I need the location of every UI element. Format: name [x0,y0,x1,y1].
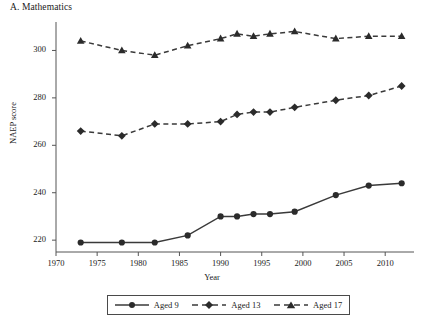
circle-marker [115,300,149,310]
data-point-triangle [118,46,126,53]
y-tick-label: 260 [12,139,46,149]
data-point-diamond [151,120,159,128]
data-point-circle [250,211,256,217]
series-line-aged-13 [81,86,402,136]
series-line-aged-17 [81,31,402,55]
legend-item-aged-17: Aged 17 [274,300,342,310]
x-tick-label: 1995 [242,258,282,268]
legend-label-aged-9: Aged 9 [154,300,179,310]
data-point-diamond [332,96,340,104]
x-tick-label: 1990 [201,258,241,268]
x-tick-label: 2010 [365,258,405,268]
x-tick-label: 2000 [283,258,323,268]
data-point-circle [333,192,339,198]
legend-label-aged-13: Aged 13 [231,300,260,310]
x-tick-label: 1975 [77,258,117,268]
data-point-circle [267,211,273,217]
series-line-aged-9 [81,183,402,242]
data-point-circle [78,239,84,245]
x-tick-label: 1985 [159,258,199,268]
data-point-diamond [233,111,241,119]
data-point-diamond [118,132,126,140]
data-point-triangle [365,32,373,39]
x-tick-label: 1980 [118,258,158,268]
naep-mathematics-chart: A. Mathematics NAEP score Year 220240260… [0,0,424,323]
chart-legend: Aged 9 Aged 13 Aged 17 [107,295,350,315]
data-point-circle [292,209,298,215]
data-point-circle [366,183,372,189]
data-point-triangle [233,30,241,37]
data-point-diamond [250,108,258,116]
plot-area [0,0,424,323]
data-point-diamond [184,120,192,128]
x-tick-label: 1970 [36,258,76,268]
data-point-circle [399,180,405,186]
diamond-marker [192,300,226,310]
data-point-circle [185,232,191,238]
data-point-triangle [77,37,85,44]
legend-item-aged-9: Aged 9 [115,300,179,310]
data-point-circle [119,239,125,245]
x-tick-label: 2005 [324,258,364,268]
data-point-diamond [217,118,225,126]
data-point-diamond [77,127,85,135]
data-point-circle [217,213,223,219]
legend-item-aged-13: Aged 13 [192,300,260,310]
data-point-circle [234,213,240,219]
data-point-circle [152,239,158,245]
data-point-triangle [291,27,299,34]
triangle-marker [274,300,308,310]
data-point-diamond [291,103,299,111]
y-tick-label: 300 [12,44,46,54]
y-tick-label: 220 [12,234,46,244]
data-point-diamond [266,108,274,116]
y-tick-label: 240 [12,187,46,197]
legend-label-aged-17: Aged 17 [313,300,342,310]
y-tick-label: 280 [12,92,46,102]
data-point-diamond [365,92,373,100]
data-point-diamond [398,82,406,90]
